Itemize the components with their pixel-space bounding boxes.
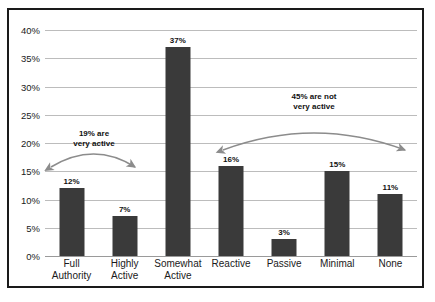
annotation-not-very-active-line2: very active [292,102,337,112]
bar-somewhat-active[interactable] [165,47,190,256]
annotation-very-active-line2: very active [73,139,114,149]
y-axis-tick-30pct: 30% [21,81,40,92]
x-axis-label-line: Minimal [320,258,354,270]
x-axis-label-line: Reactive [212,258,251,270]
y-axis-tick-10pct: 10% [21,194,40,205]
bar-value-label-reactive: 16% [223,155,239,164]
y-axis-tick-40pct: 40% [21,25,40,36]
bar-reactive[interactable] [218,166,243,256]
y-axis-tick-25pct: 25% [21,109,40,120]
bar-group: 11% [364,30,417,256]
x-axis-label-line: None [378,258,402,270]
bar-full-authority[interactable] [59,188,84,256]
x-axis-label-none: None [378,258,402,270]
bar-group: 37% [151,30,204,256]
bar-value-label-highly-active: 7% [119,205,131,214]
x-axis-label-line: Passive [267,258,302,270]
x-axis-label-line: Highly [111,258,139,270]
x-axis-label-reactive: Reactive [212,258,251,270]
bar-group: 16% [204,30,257,256]
x-axis-label-line: Authority [52,270,91,282]
x-axis-label-line: Active [154,270,201,282]
x-axis-label-minimal: Minimal [320,258,354,270]
annotation-very-active-line1: 19% are [73,129,114,139]
bar-value-label-none: 11% [383,183,399,192]
bar-group: 15% [311,30,364,256]
x-axis-category-labels: FullAuthorityHighlyActiveSomewhatActiveR… [45,258,417,288]
x-axis-label-line: Somewhat [154,258,201,270]
x-axis-label-line: Active [111,270,139,282]
bar-minimal[interactable] [325,171,350,256]
bar-none[interactable] [378,194,403,256]
bar-value-label-somewhat-active: 37% [170,36,186,45]
annotation-label-not-very-active: 45% are not very active [292,92,337,111]
bar-value-label-minimal: 15% [329,160,345,169]
x-axis-label-line: Full [52,258,91,270]
y-axis-tick-20pct: 20% [21,138,40,149]
x-axis-label-passive: Passive [267,258,302,270]
bar-group: 3% [258,30,311,256]
y-axis-tick-0pct: 0% [26,251,40,262]
y-axis-tick-15pct: 15% [21,166,40,177]
gridline-0 [45,256,417,257]
x-axis-label-full-authority: FullAuthority [52,258,91,281]
annotation-not-very-active-line1: 45% are not [292,92,337,102]
bar-highly-active[interactable] [112,216,137,256]
chart-frame: 0%5%10%15%20%25%30%35%40% 12%7%37%16%3%1… [7,8,424,288]
bar-value-label-passive: 3% [278,228,290,237]
bar-passive[interactable] [272,239,297,256]
bar-value-label-full-authority: 12% [64,177,80,186]
annotation-label-very-active: 19% are very active [73,129,114,148]
x-axis-label-somewhat-active: SomewhatActive [154,258,201,281]
y-axis-tick-35pct: 35% [21,53,40,64]
x-axis-label-highly-active: HighlyActive [111,258,139,281]
y-axis-tick-5pct: 5% [26,222,40,233]
